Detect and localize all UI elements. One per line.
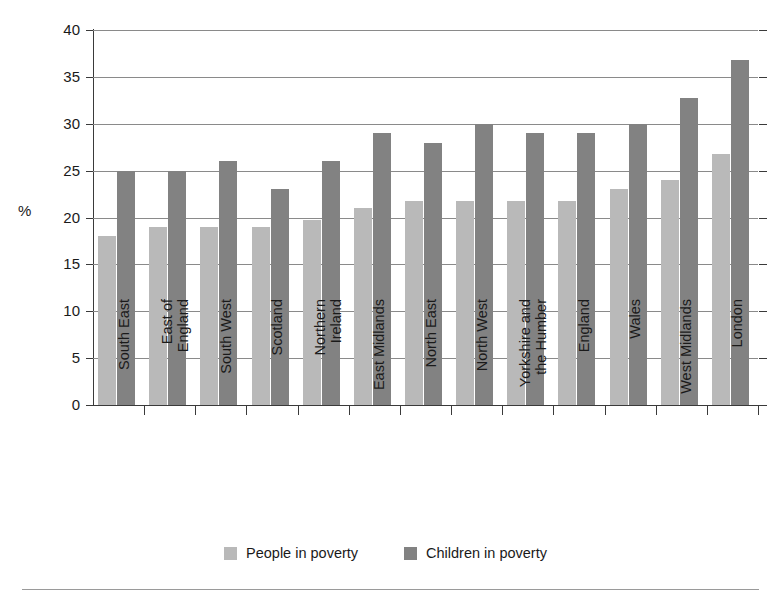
y-tick-mark-right: [759, 358, 767, 359]
x-axis-label: East of England: [159, 299, 191, 419]
y-tick-label: 5: [50, 350, 80, 365]
y-tick-mark: [86, 218, 93, 219]
x-axis-label: Scotland: [269, 299, 285, 419]
x-tick-mark: [707, 406, 708, 415]
bar-people-in-poverty: [712, 154, 730, 405]
y-tick-mark-right: [759, 311, 767, 312]
y-axis-title: %: [18, 202, 31, 219]
y-tick-label: 35: [50, 69, 80, 84]
legend-label: People in poverty: [246, 545, 358, 561]
y-tick-label: 20: [50, 210, 80, 225]
bar-people-in-poverty: [558, 201, 576, 405]
x-axis-label: North East: [423, 299, 439, 419]
x-tick-mark: [400, 406, 401, 415]
footer-divider: [22, 589, 759, 590]
x-axis-label: South East: [116, 299, 132, 419]
x-tick-mark: [605, 406, 606, 415]
poverty-bar-chart: % 0510152025303540 South EastEast of Eng…: [0, 0, 771, 601]
y-tick-mark: [86, 171, 93, 172]
y-tick-label: 40: [50, 22, 80, 37]
legend-swatch-icon: [224, 547, 237, 560]
x-tick-mark: [349, 406, 350, 415]
bar-people-in-poverty: [98, 236, 116, 405]
bar-people-in-poverty: [610, 189, 628, 405]
y-tick-label: 15: [50, 256, 80, 271]
y-tick-mark-right: [759, 30, 767, 31]
y-tick-label: 30: [50, 116, 80, 131]
bar-people-in-poverty: [661, 180, 679, 405]
legend-entry: Children in poverty: [404, 545, 547, 561]
x-tick-mark: [553, 406, 554, 415]
bar-people-in-poverty: [252, 227, 270, 405]
x-axis-label: London: [729, 299, 745, 419]
x-tick-mark: [195, 406, 196, 415]
y-tick-mark-right: [759, 124, 767, 125]
y-tick-mark-right: [759, 264, 767, 265]
y-tick-mark: [86, 30, 93, 31]
bar-people-in-poverty: [456, 201, 474, 405]
y-tick-mark-right: [759, 218, 767, 219]
x-axis-label: Wales: [627, 299, 643, 419]
x-tick-mark: [656, 406, 657, 415]
y-tick-mark: [86, 124, 93, 125]
y-tick-mark-right: [759, 171, 767, 172]
x-axis-label: South West: [218, 299, 234, 419]
bar-people-in-poverty: [354, 208, 372, 405]
x-axis-label: Yorkshire and the Humber: [517, 299, 549, 419]
y-tick-mark: [86, 77, 93, 78]
chart-legend: People in povertyChildren in poverty: [0, 545, 771, 561]
y-tick-label: 0: [50, 397, 80, 412]
y-tick-mark-right: [759, 405, 767, 406]
y-tick-mark: [86, 405, 93, 406]
x-tick-mark: [502, 406, 503, 415]
y-tick-mark: [86, 311, 93, 312]
x-axis-label: North West: [474, 299, 490, 419]
y-axis-tick-labels: 0510152025303540: [44, 0, 80, 420]
y-tick-mark-right: [759, 77, 767, 78]
x-tick-mark: [758, 406, 759, 415]
x-axis-label: England: [576, 299, 592, 419]
legend-swatch-icon: [404, 547, 417, 560]
y-tick-mark: [86, 358, 93, 359]
x-tick-mark: [298, 406, 299, 415]
x-axis-label: West Midlands: [678, 299, 694, 419]
y-tick-mark: [86, 264, 93, 265]
x-axis-label: Northern Ireland: [312, 299, 344, 419]
legend-entry: People in poverty: [224, 545, 358, 561]
x-tick-mark: [451, 406, 452, 415]
x-axis-label: East Midlands: [371, 299, 387, 419]
y-tick-label: 10: [50, 303, 80, 318]
y-tick-label: 25: [50, 163, 80, 178]
bar-people-in-poverty: [405, 201, 423, 405]
x-tick-mark: [246, 406, 247, 415]
x-tick-mark: [144, 406, 145, 415]
bar-people-in-poverty: [200, 227, 218, 405]
legend-label: Children in poverty: [426, 545, 547, 561]
